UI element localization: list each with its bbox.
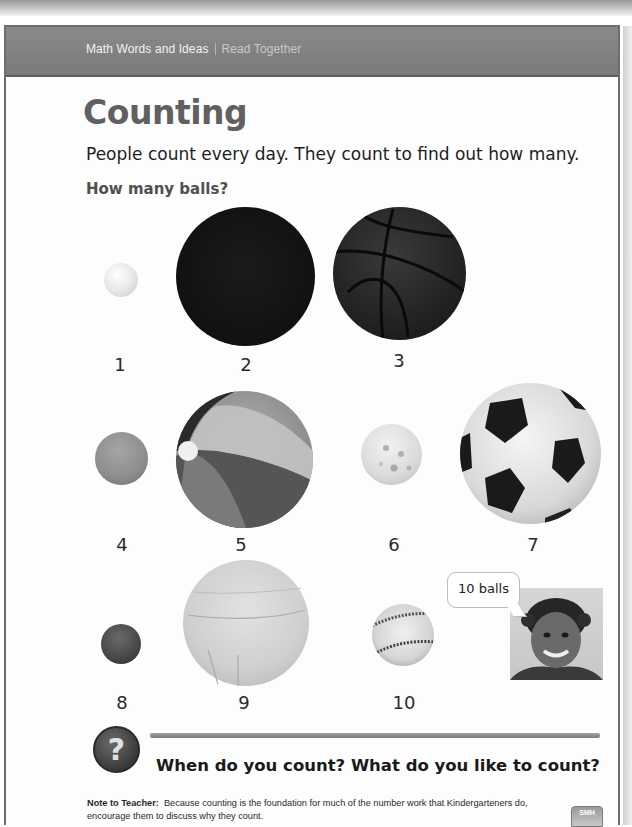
- header-subsection: Read Together: [222, 42, 302, 56]
- dark-ball-image: [176, 207, 315, 346]
- header-breadcrumb: Math Words and IdeasRead Together: [86, 42, 301, 56]
- bouncy-ball-image: [101, 624, 141, 664]
- child-photo: [510, 588, 603, 680]
- teacher-note-label: Note to Teacher:: [87, 798, 159, 808]
- soccer-pentagons-icon: [460, 383, 601, 524]
- baseball-stitches-icon: [372, 604, 434, 666]
- ball-number: 6: [379, 534, 409, 555]
- top-shadow: [0, 0, 632, 16]
- ball-number: 7: [518, 534, 548, 555]
- basketball-image: [333, 207, 466, 340]
- question-heading: How many balls?: [86, 180, 228, 198]
- volleyball-seams-icon: [183, 560, 309, 686]
- discussion-question: When do you count? What do you like to c…: [156, 756, 600, 775]
- ball-number: 3: [384, 350, 414, 371]
- ball-number: 2: [231, 354, 261, 375]
- small-rubber-ball-image: [95, 432, 148, 485]
- header-divider: [215, 43, 216, 55]
- speech-bubble: 10 balls: [447, 572, 520, 608]
- ball-number: 5: [226, 534, 256, 555]
- page-title: Counting: [83, 93, 247, 132]
- baseball-image: [372, 604, 434, 666]
- wiffle-holes-icon: [361, 424, 422, 485]
- ball-number: 10: [389, 692, 419, 713]
- teacher-note: Note to Teacher: Because counting is the…: [87, 797, 557, 823]
- volleyball-image: [183, 560, 309, 686]
- intro-text: People count every day. They count to fi…: [86, 144, 579, 164]
- smh-badge: SMH: [571, 806, 603, 827]
- header-band: Math Words and IdeasRead Together: [6, 27, 618, 77]
- ball-number: 1: [105, 354, 135, 375]
- basketball-seams-icon: [333, 207, 466, 340]
- ball-number: 9: [229, 692, 259, 713]
- discussion-divider: [150, 733, 600, 738]
- wiffle-ball-image: [361, 424, 422, 485]
- ping-pong-ball-image: [104, 263, 138, 297]
- soccer-ball-image: [460, 383, 601, 524]
- ball-number: 8: [107, 692, 137, 713]
- child-face-icon: [510, 588, 603, 680]
- ball-number: 4: [107, 534, 137, 555]
- question-mark-icon: ?: [93, 726, 140, 773]
- right-shadow: [623, 26, 632, 825]
- header-section: Math Words and Ideas: [86, 42, 209, 56]
- beach-ball-panels-icon: [176, 391, 313, 528]
- beach-ball-image: [176, 391, 313, 528]
